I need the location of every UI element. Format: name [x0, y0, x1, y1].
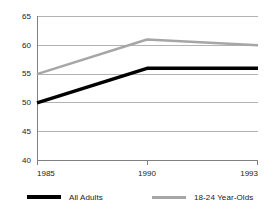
x-tick-label: 1985	[37, 169, 55, 178]
y-tick-label: 40	[22, 156, 31, 165]
x-axis-tick-labels: 1985 1990 1993	[37, 169, 259, 178]
legend-swatch-line-icon	[152, 196, 186, 199]
x-tick-label: 1990	[138, 169, 156, 178]
chart-legend: All Adults 18-24 Year-Olds	[0, 186, 280, 212]
legend-swatch-line-icon	[27, 195, 61, 199]
y-tick-label: 65	[22, 12, 31, 21]
x-tick-label: 1993	[240, 169, 258, 178]
y-tick-label: 50	[22, 98, 31, 107]
y-tick-label: 45	[22, 127, 31, 136]
legend-label: 18-24 Year-Olds	[194, 193, 253, 202]
legend-label: All Adults	[69, 193, 103, 202]
legend-item-18-24-year-olds: 18-24 Year-Olds	[152, 190, 253, 204]
y-axis-tick-labels: 65 60 55 50 45 40	[22, 12, 31, 165]
series-line-all-adults	[37, 68, 258, 103]
gridlines	[37, 17, 258, 132]
x-axis-ticks	[38, 161, 258, 166]
line-chart: 65 60 55 50 45 40	[0, 0, 280, 212]
y-tick-label: 55	[22, 69, 31, 78]
legend-item-all-adults: All Adults	[27, 190, 103, 204]
y-tick-label: 60	[22, 41, 31, 50]
chart-plot-area: 65 60 55 50 45 40	[0, 0, 280, 186]
